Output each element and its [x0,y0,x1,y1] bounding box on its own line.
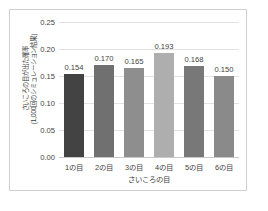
chart-container: さいころの目が出た確率 (1,000回のシミュレーション結果) 0.000.05… [9,9,247,191]
x-axis-tick-label: 5の目 [185,161,203,172]
bar-group: 0.1653の目 [119,22,149,157]
bar-value-label: 0.168 [184,55,203,64]
bar-group: 0.1702の目 [89,22,119,157]
x-axis-tick-label: 6の目 [215,161,233,172]
bar-value-label: 0.165 [124,57,143,66]
bar-group: 0.1506の目 [209,22,239,157]
y-axis-tick-label: 0.25 [40,18,55,27]
bar-value-label: 0.150 [214,65,233,74]
x-axis-tick-label: 4の目 [155,161,173,172]
y-axis-title: さいころの目が出た確率 (1,000回のシミュレーション結果) [17,11,43,147]
y-axis-tick-label: 0.00 [40,153,55,162]
y-axis-title-line-2: (1,000回のシミュレーション結果) [30,34,38,124]
x-axis-tick-label: 1の目 [65,161,83,172]
bar [214,76,234,157]
bar [124,68,144,157]
bar [94,65,114,157]
bar-group: 0.1934の目 [149,22,179,157]
y-axis-title-line-1: さいころの目が出た確率 [22,47,30,112]
y-axis-tick-label: 0.20 [40,45,55,54]
y-axis-tick-label: 0.10 [40,99,55,108]
bar-value-label: 0.193 [154,42,173,51]
bar [154,53,174,157]
y-axis-tick-label: 0.15 [40,72,55,81]
bar-value-label: 0.154 [64,63,83,72]
bar [184,66,204,157]
x-axis-tick-label: 3の目 [125,161,143,172]
y-axis-tick-label: 0.05 [40,126,55,135]
plot-area: 0.000.050.100.150.200.25 0.1541の目0.1702の… [59,22,239,157]
x-axis-title: さいころの目 [59,173,239,184]
gridline [59,157,239,158]
bar-series: 0.1541の目0.1702の目0.1653の目0.1934の目0.1685の目… [59,22,239,157]
x-axis-tick-label: 2の目 [95,161,113,172]
bar-group: 0.1541の目 [59,22,89,157]
bar-group: 0.1685の目 [179,22,209,157]
bar [64,74,84,157]
bar-value-label: 0.170 [94,54,113,63]
